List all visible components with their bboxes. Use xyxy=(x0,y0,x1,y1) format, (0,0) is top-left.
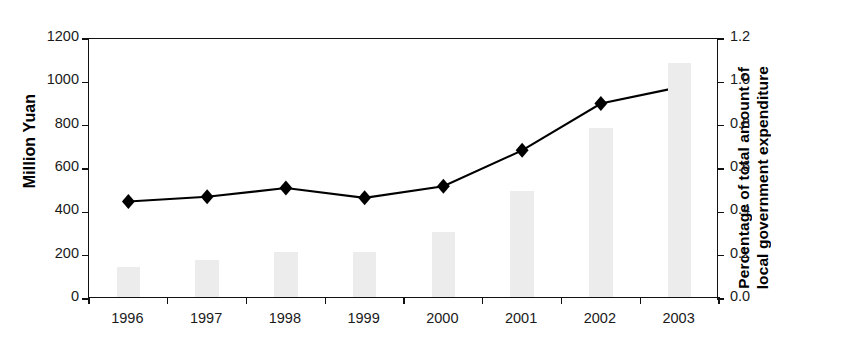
right-tick-label: 0.8 xyxy=(730,115,778,131)
left-tick-label: 800 xyxy=(31,115,79,131)
left-tick-label: 1000 xyxy=(31,71,79,87)
x-axis-label: 1996 xyxy=(92,310,162,326)
right-tick-label: 0.6 xyxy=(730,158,778,174)
chart-figure: Million Yuan Percentage of total amount … xyxy=(0,0,857,355)
left-tick-mark xyxy=(82,125,89,126)
bar-2002 xyxy=(589,128,613,297)
right-tick-label: 0.0 xyxy=(730,288,778,304)
x-tick-mark xyxy=(718,297,719,304)
x-axis-label: 2002 xyxy=(565,310,635,326)
plot-area xyxy=(88,38,718,298)
x-axis-label: 2003 xyxy=(644,310,714,326)
right-tick-mark xyxy=(717,255,724,256)
left-tick-mark xyxy=(82,255,89,256)
x-axis-label: 1997 xyxy=(171,310,241,326)
right-tick-label: 1.0 xyxy=(730,71,778,87)
bar-1998 xyxy=(274,252,298,298)
data-point-marker-1996 xyxy=(122,194,135,209)
x-tick-mark xyxy=(167,297,168,304)
data-point-marker-1999 xyxy=(358,190,371,205)
x-tick-mark xyxy=(640,297,641,304)
x-axis-label: 2000 xyxy=(407,310,477,326)
left-tick-label: 400 xyxy=(31,201,79,217)
x-tick-mark xyxy=(246,297,247,304)
data-point-marker-2001 xyxy=(516,143,529,158)
bar-1997 xyxy=(195,260,219,297)
x-tick-mark xyxy=(325,297,326,304)
line-series-layer xyxy=(89,39,719,299)
right-tick-label: 1.2 xyxy=(730,28,778,44)
x-axis-label: 2001 xyxy=(486,310,556,326)
left-tick-label: 1200 xyxy=(31,28,79,44)
right-tick-mark xyxy=(717,38,724,39)
right-tick-label: 0.2 xyxy=(730,245,778,261)
left-tick-mark xyxy=(82,168,89,169)
left-tick-label: 0 xyxy=(31,288,79,304)
left-tick-label: 600 xyxy=(31,158,79,174)
data-point-marker-2002 xyxy=(594,96,607,111)
bar-2001 xyxy=(510,191,534,297)
bar-2000 xyxy=(432,232,456,297)
left-tick-label: 200 xyxy=(31,245,79,261)
data-point-marker-1998 xyxy=(279,181,292,196)
right-tick-mark xyxy=(717,168,724,169)
data-point-marker-1997 xyxy=(201,189,214,204)
x-tick-mark xyxy=(403,297,404,304)
bar-1999 xyxy=(353,252,377,298)
x-axis-label: 1999 xyxy=(329,310,399,326)
bar-2003 xyxy=(668,63,692,297)
left-tick-mark xyxy=(82,212,89,213)
x-tick-mark xyxy=(482,297,483,304)
x-axis-label: 1998 xyxy=(250,310,320,326)
left-tick-mark xyxy=(82,82,89,83)
left-tick-mark xyxy=(82,38,89,39)
right-tick-label: 0.4 xyxy=(730,201,778,217)
bar-1996 xyxy=(117,267,141,297)
right-tick-mark xyxy=(717,212,724,213)
right-tick-mark xyxy=(717,125,724,126)
x-tick-mark xyxy=(561,297,562,304)
right-tick-mark xyxy=(717,82,724,83)
data-point-marker-2000 xyxy=(437,179,450,194)
x-tick-mark xyxy=(88,297,89,304)
